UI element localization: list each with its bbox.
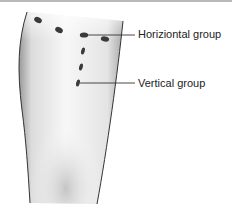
horizontal-group-label: Horiziontal group <box>138 28 221 40</box>
vertical-group-label: Vertical group <box>138 77 205 89</box>
